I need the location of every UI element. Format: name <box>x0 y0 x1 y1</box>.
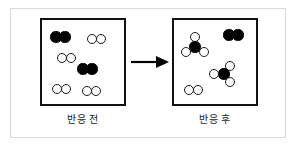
reaction-arrow <box>131 55 169 69</box>
open-atom <box>193 85 204 96</box>
caption-before-reaction: 반응 전 <box>40 114 126 126</box>
filled-atom <box>86 63 97 74</box>
molecule-container-after <box>174 20 256 104</box>
open-atom <box>209 69 220 80</box>
open-atom <box>181 47 192 58</box>
open-atom <box>91 86 102 97</box>
open-atom <box>96 34 107 45</box>
panel-after-reaction <box>172 18 258 106</box>
filled-atom <box>59 31 70 42</box>
reaction-diagram-figure: 반응 전 반응 후 <box>0 0 296 148</box>
panel-before-reaction <box>40 18 126 106</box>
open-atom <box>199 47 210 58</box>
open-atom <box>66 53 77 64</box>
molecule-container-before <box>42 20 124 104</box>
open-atom <box>225 77 236 88</box>
open-atom <box>61 84 72 95</box>
caption-after-reaction: 반응 후 <box>172 114 258 126</box>
filled-atom <box>232 29 243 40</box>
